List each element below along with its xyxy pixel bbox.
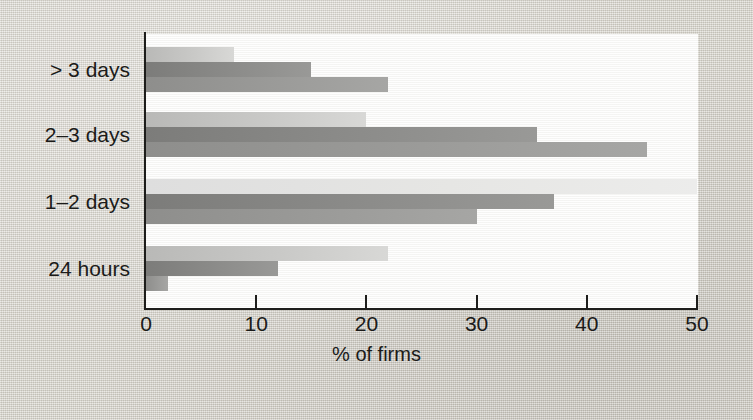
bar	[146, 77, 388, 92]
x-axis-tick	[255, 295, 257, 309]
x-axis-tick-label: 10	[245, 312, 268, 336]
bar	[146, 261, 278, 276]
bar	[146, 47, 234, 62]
bar	[146, 246, 388, 261]
bar	[146, 142, 647, 157]
bar	[146, 62, 311, 77]
bar	[146, 194, 554, 209]
x-axis-left-cap	[144, 295, 146, 310]
x-axis-tick-label: 50	[685, 312, 708, 336]
bar	[146, 209, 477, 224]
x-axis-right-cap	[696, 295, 698, 310]
category-label: 24 hours	[48, 257, 130, 281]
x-axis-tick-label: 20	[355, 312, 378, 336]
bar	[146, 276, 168, 291]
chart-canvas: 01020304050 > 3 days2–3 days1–2 days24 h…	[0, 0, 753, 420]
y-axis-line	[144, 32, 146, 310]
chart-figure: 01020304050 > 3 days2–3 days1–2 days24 h…	[0, 0, 753, 420]
x-axis-tick	[586, 295, 588, 309]
bar	[146, 127, 537, 142]
x-axis-tick-label: 0	[140, 312, 152, 336]
x-axis-tick-label: 40	[575, 312, 598, 336]
x-axis-tick-label: 30	[465, 312, 488, 336]
bar	[146, 179, 697, 194]
x-axis-title: % of firms	[0, 343, 753, 366]
category-label: 1–2 days	[45, 190, 130, 214]
x-axis-tick	[365, 295, 367, 309]
x-axis-line	[144, 308, 697, 310]
bar	[146, 112, 366, 127]
category-label: > 3 days	[50, 58, 130, 82]
category-label: 2–3 days	[45, 123, 130, 147]
x-axis-tick	[476, 295, 478, 309]
